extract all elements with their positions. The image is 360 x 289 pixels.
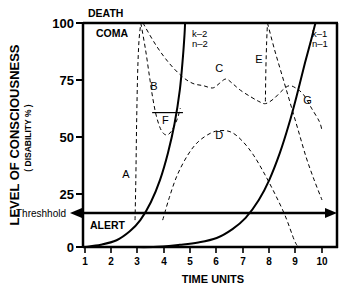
x-tick-labels: 1 2 3 4 5 6 7 8 9 10 <box>82 256 328 267</box>
x-tick-6: 6 <box>213 256 219 267</box>
curve-B <box>141 23 181 135</box>
consciousness-time-chart: LEVEL OF CONSCIOUSNESS ( DISABILITY % ) … <box>0 0 360 289</box>
y-axis-title: LEVEL OF CONSCIOUSNESS <box>7 44 22 225</box>
coma-label: COMA <box>96 27 128 39</box>
x-tick-10: 10 <box>316 256 328 267</box>
curve-A <box>135 23 141 220</box>
curve-label-A: A <box>122 168 130 180</box>
x-tick-9: 9 <box>292 256 298 267</box>
x-tick-8: 8 <box>266 256 272 267</box>
threshold-arrow-left-icon <box>70 208 82 218</box>
x-tick-1: 1 <box>82 256 88 267</box>
x-axis-title: TIME UNITS <box>182 273 244 285</box>
x-tick-2: 2 <box>108 256 114 267</box>
curve-E <box>265 23 267 101</box>
x-tick-4: 4 <box>161 256 167 267</box>
curve-label-group: ABCDEFG <box>122 53 312 179</box>
x-tick-7: 7 <box>240 256 246 267</box>
threshold-arrow-line <box>70 208 337 218</box>
y-tick-100: 100 <box>52 16 74 31</box>
n2-label: n–2 <box>192 38 208 49</box>
death-label: DEATH <box>88 7 123 19</box>
x-tick-5: 5 <box>187 256 193 267</box>
curve-label-E: E <box>255 53 262 65</box>
y-tick-labels: 100 75 50 25 0 <box>52 16 74 255</box>
curve-label-B: B <box>150 80 157 92</box>
curve-C <box>143 23 322 131</box>
curve-E2 <box>267 23 322 200</box>
threshold-label: Threshhold <box>16 208 66 219</box>
alert-label: ALERT <box>90 219 126 231</box>
y-tick-50: 50 <box>60 130 74 145</box>
x-tick-3: 3 <box>134 256 140 267</box>
curve-label-D: D <box>215 129 223 141</box>
y-tick-0: 0 <box>67 240 74 255</box>
curve-label-F: F <box>162 114 169 126</box>
y-tick-75: 75 <box>60 73 74 88</box>
chart-container: LEVEL OF CONSCIOUSNESS ( DISABILITY % ) … <box>0 0 360 289</box>
curve-label-C: C <box>215 62 223 74</box>
y-axis-subtitle: ( DISABILITY % ) <box>23 104 33 172</box>
curve-label-G: G <box>303 94 312 106</box>
n1-label: n–1 <box>312 38 328 49</box>
y-tick-25: 25 <box>60 187 74 202</box>
threshold-arrow-right-icon <box>325 208 337 218</box>
